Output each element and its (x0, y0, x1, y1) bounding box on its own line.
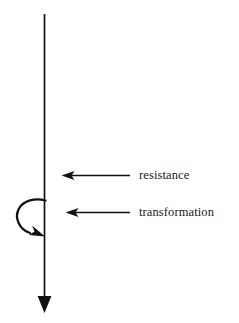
transformation-loop-arrow (17, 199, 45, 236)
vertical-time-axis (38, 14, 52, 313)
resistance-arrow (62, 171, 131, 180)
transformation-label: transformation (139, 206, 214, 219)
transformation-loop-arrowhead-icon (29, 226, 45, 237)
diagram-canvas: resistance transformation (0, 0, 239, 323)
vertical-axis-arrowhead-icon (38, 296, 52, 313)
transformation-loop-path (17, 199, 45, 233)
diagram-vector-layer (0, 0, 239, 323)
transformation-arrow (66, 208, 131, 217)
resistance-label: resistance (139, 169, 189, 182)
